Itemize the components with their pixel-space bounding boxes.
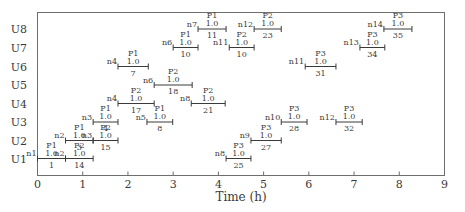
task-bar-u8-n7: n7P11.011 xyxy=(187,11,226,40)
size-label: 1.0 xyxy=(260,131,273,140)
node-label: n14 xyxy=(368,20,383,29)
y-axis-labels: U8U7U6U5U4U3U2U1 xyxy=(11,23,27,166)
task-id-label: 25 xyxy=(233,161,243,170)
node-label: n2 xyxy=(54,149,64,158)
node-label: n4 xyxy=(107,57,117,66)
task-bar-u2-n9: n9P31.027 xyxy=(240,123,282,152)
task-id-label: 7 xyxy=(131,69,136,78)
y-label-u1: U1 xyxy=(11,153,27,166)
task-id-label: 14 xyxy=(74,161,84,170)
node-label: n6 xyxy=(143,76,153,85)
node-label: n7 xyxy=(187,20,197,29)
size-label: 1.0 xyxy=(288,112,301,121)
x-tick-label: 2 xyxy=(124,178,131,191)
size-label: 1.0 xyxy=(179,38,192,47)
task-bar-u6-n11: n11P31.031 xyxy=(289,49,336,78)
task-id-label: 23 xyxy=(263,31,273,40)
size-label: 1.0 xyxy=(206,19,219,28)
task-id-label: 1 xyxy=(49,161,54,170)
size-label: 1.0 xyxy=(232,149,245,158)
task-bar-u5-n6: n6P21.018 xyxy=(143,67,192,96)
x-tick-label: 8 xyxy=(396,178,403,191)
y-label-u5: U5 xyxy=(11,79,27,92)
x-tick-label: 3 xyxy=(170,178,177,191)
task-bar-u7-n6: n6P11.010 xyxy=(162,30,198,59)
node-label: n8 xyxy=(180,94,190,103)
task-id-label: 4 xyxy=(103,124,108,133)
y-label-u7: U7 xyxy=(11,42,27,55)
size-label: 1.0 xyxy=(167,75,180,84)
size-label: 1.0 xyxy=(127,57,140,66)
size-label: 1.0 xyxy=(202,94,215,103)
node-label: n12 xyxy=(320,113,335,122)
task-id-label: 28 xyxy=(289,124,299,133)
task-bar-u7-n11: n11P21.010 xyxy=(213,30,254,59)
y-label-u4: U4 xyxy=(11,98,27,111)
task-bar-u4-n4: n4P21.017 xyxy=(107,86,154,115)
size-label: 1.0 xyxy=(153,112,166,121)
node-label: n1 xyxy=(26,149,36,158)
node-label: n9 xyxy=(240,131,250,140)
node-label: n3 xyxy=(82,113,92,122)
x-tick-label: 0 xyxy=(34,178,41,191)
node-label: n2 xyxy=(54,131,64,140)
task-bar-u2-n3: n3P21.015 xyxy=(82,123,118,152)
x-axis-ticks: 0123456789 xyxy=(34,172,448,192)
task-id-label: 11 xyxy=(207,31,217,40)
task-id-label: 34 xyxy=(367,50,377,59)
gantt-chart: U8U7U6U5U4U3U2U1 0123456789 Time (h) n1P… xyxy=(0,0,465,212)
task-id-label: 8 xyxy=(157,124,162,133)
task-id-label: 32 xyxy=(344,124,354,133)
node-label: n10 xyxy=(265,113,280,122)
size-label: 1.0 xyxy=(366,38,379,47)
task-id-label: 35 xyxy=(393,31,403,40)
y-label-u3: U3 xyxy=(11,116,27,129)
node-label: n8 xyxy=(215,149,225,158)
task-id-label: 10 xyxy=(181,50,191,59)
size-label: 1.0 xyxy=(130,94,143,103)
x-tick-label: 9 xyxy=(441,178,448,191)
size-label: 1.0 xyxy=(99,112,112,121)
node-label: n4 xyxy=(107,94,117,103)
task-bar-u1-n2: n2P21.014 xyxy=(54,141,93,170)
task-bar-u1-n8: n8P31.025 xyxy=(215,141,251,170)
size-label: 1.0 xyxy=(235,38,248,47)
task-id-label: 17 xyxy=(131,106,141,115)
task-bar-u4-n8: n8P21.021 xyxy=(180,86,225,115)
task-id-label: 21 xyxy=(203,106,213,115)
x-tick-label: 7 xyxy=(351,178,358,191)
node-label: n11 xyxy=(289,57,304,66)
task-bars: n1P11.01n2P21.014n8P31.025n2P11.03n3P21.… xyxy=(26,11,412,170)
size-label: 1.0 xyxy=(261,19,274,28)
task-bar-u6-n4: n4P11.07 xyxy=(107,49,149,78)
task-id-label: 18 xyxy=(168,87,178,96)
task-bar-u7-n13: n13P31.034 xyxy=(344,30,385,59)
y-label-u6: U6 xyxy=(11,61,27,74)
task-bar-u3-n12: n12P31.032 xyxy=(320,104,363,133)
node-label: n3 xyxy=(82,131,92,140)
task-bar-u3-n5: n5P11.08 xyxy=(136,104,173,133)
size-label: 1.0 xyxy=(343,112,356,121)
task-id-label: 15 xyxy=(100,143,110,152)
task-id-label: 10 xyxy=(237,50,247,59)
x-axis-label: Time (h) xyxy=(215,190,266,204)
size-label: 1.0 xyxy=(314,57,327,66)
node-label: n12 xyxy=(238,20,253,29)
task-id-label: 31 xyxy=(315,69,325,78)
task-id-label: 27 xyxy=(261,143,271,152)
y-label-u8: U8 xyxy=(11,23,27,36)
size-label: 1.0 xyxy=(392,19,405,28)
x-tick-label: 1 xyxy=(79,178,86,191)
node-label: n6 xyxy=(162,38,172,47)
node-label: n13 xyxy=(344,38,359,47)
y-label-u2: U2 xyxy=(11,135,27,148)
x-tick-label: 6 xyxy=(305,178,312,191)
task-id-label: 3 xyxy=(77,143,82,152)
